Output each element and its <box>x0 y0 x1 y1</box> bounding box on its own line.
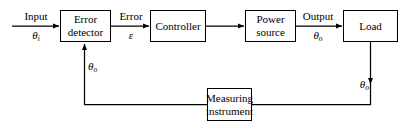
block-error-detector-line2: detector <box>68 26 103 39</box>
block-error-detector-line1: Error <box>74 13 97 26</box>
block-load-line1: Load <box>359 20 382 33</box>
label-error-symbol-epsilon: ε <box>129 29 133 41</box>
block-power-source-line2: source <box>256 26 285 39</box>
label-error-text: Error <box>119 10 142 22</box>
block-power-source-line1: Power <box>256 13 284 26</box>
label-sensed-output-symbol: θo <box>351 78 369 92</box>
label-output-symbol-sub: o <box>319 34 323 43</box>
label-output-text: Output <box>303 10 334 22</box>
label-input-text: Input <box>24 10 47 22</box>
block-measuring-instrument-line1: Measuring <box>206 92 253 105</box>
label-input: Input <box>14 10 58 22</box>
label-feedback-symbol: θo <box>88 60 110 74</box>
label-sensed-output-symbol-sub: o <box>365 83 369 92</box>
label-input-symbol: θi <box>14 29 58 43</box>
label-input-symbol-sub: i <box>38 34 40 43</box>
block-controller-line1: Controller <box>155 20 200 33</box>
label-error-symbol: ε <box>110 29 152 41</box>
label-input-symbol-theta: θ <box>32 29 37 41</box>
block-load[interactable]: Load <box>343 10 398 42</box>
block-error-detector[interactable]: Error detector <box>60 10 111 42</box>
label-output: Output <box>294 10 342 22</box>
label-error: Error <box>110 10 152 22</box>
block-measuring-instrument-line2: instrument <box>206 105 253 118</box>
label-feedback-symbol-sub: o <box>93 65 97 74</box>
block-measuring-instrument[interactable]: Measuring instrument <box>207 88 252 121</box>
label-output-symbol: θo <box>294 29 342 43</box>
block-power-source[interactable]: Power source <box>245 10 296 42</box>
block-controller[interactable]: Controller <box>150 10 206 42</box>
control-system-block-diagram: Error detector Controller Power source L… <box>0 0 407 131</box>
